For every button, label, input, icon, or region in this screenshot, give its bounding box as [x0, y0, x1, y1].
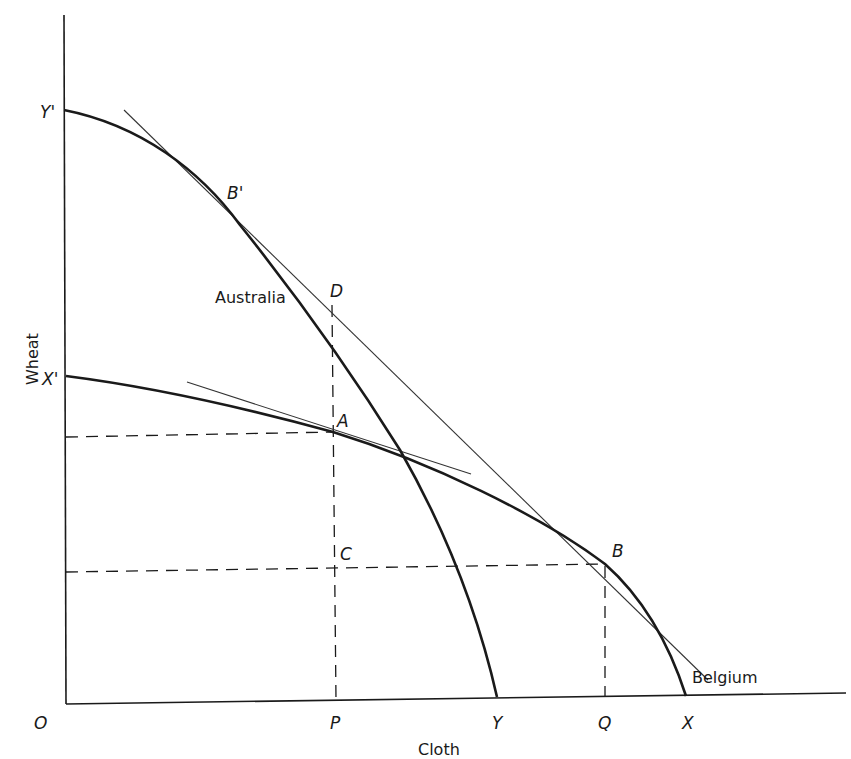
price-line-A — [187, 382, 471, 474]
label-y-prime: Y' — [40, 102, 55, 122]
label-a: A — [336, 411, 349, 431]
dashed-guides — [66, 305, 605, 700]
label-australia: Australia — [215, 288, 286, 307]
label-x-prime: X' — [41, 369, 58, 389]
australia-curve — [64, 110, 497, 697]
dashed-horizontal-A — [66, 432, 333, 437]
label-p: P — [330, 713, 341, 733]
label-d: D — [330, 281, 343, 301]
label-x: X — [681, 713, 694, 733]
label-q: Q — [598, 713, 611, 733]
ppf-diagram: Y' X' B' Australia D A C B Belgium O P Y… — [0, 0, 851, 759]
label-b-prime: B' — [227, 183, 243, 203]
label-origin: O — [34, 713, 47, 733]
label-belgium: Belgium — [692, 668, 758, 687]
belgium-curve — [66, 376, 686, 696]
y-axis-title: Wheat — [23, 333, 42, 385]
x-axis-title: Cloth — [418, 740, 460, 759]
label-y: Y — [492, 713, 504, 733]
y-axis — [64, 15, 66, 704]
label-b: B — [612, 541, 624, 561]
dashed-vertical-P — [332, 305, 336, 700]
price-line-B-Bprime — [124, 110, 708, 680]
x-axis — [66, 693, 846, 704]
label-c: C — [340, 544, 352, 564]
